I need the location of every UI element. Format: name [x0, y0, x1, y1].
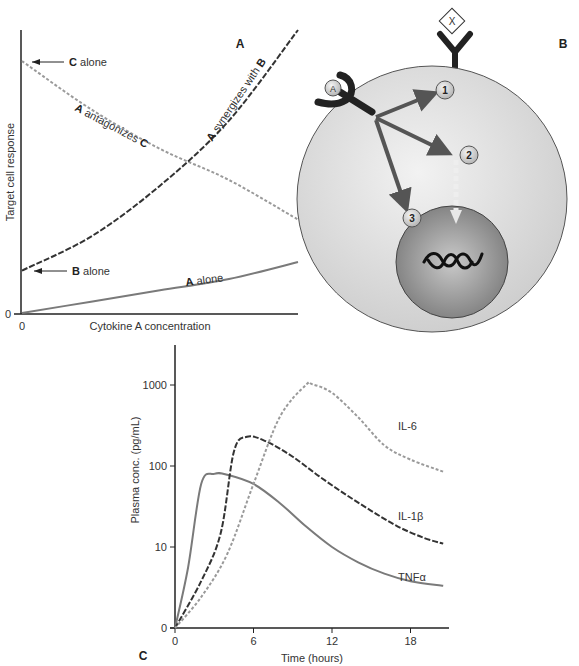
panel-c: 0101001000061218 Plasma conc. (pg/mL) Ti… [129, 345, 449, 664]
panel-a: 0 0 Cytokine A concentration Target cell… [4, 30, 298, 332]
y-tick-label: 10 [155, 541, 167, 553]
panel-c-x-label: Time (hours) [281, 652, 343, 664]
x-tick-label: 6 [250, 635, 256, 647]
ligand-a-label: A [330, 84, 336, 94]
antagonizes-label: A antagonizes C [73, 101, 150, 150]
panel-c-label: C [139, 649, 148, 663]
svg-text:3: 3 [409, 213, 415, 224]
panel-a-x-zero: 0 [19, 320, 25, 332]
x-tick-label: 0 [172, 635, 178, 647]
c-alone-label: C alone [69, 56, 107, 68]
series-line-a-antagonizes-c [22, 61, 298, 219]
synergizes-label: A synergizes with B [204, 56, 268, 143]
series-line-il-6 [175, 382, 443, 628]
panel-a-y-zero: 0 [5, 308, 11, 320]
c-alone-annotation: C alone [32, 56, 107, 68]
ligand-a-icon: A [325, 80, 341, 96]
step-badge-2: 2 [460, 146, 478, 164]
series-line-tnf [175, 473, 443, 628]
step-badge-1: 1 [436, 81, 454, 99]
panel-a-y-label: Target cell response [4, 123, 16, 221]
series-line-a-alone [22, 262, 298, 313]
y-tick-label: 0 [161, 622, 167, 634]
panel-c-plot [175, 382, 443, 628]
y-tick-label: 100 [149, 460, 167, 472]
ligand-x-label: X [449, 16, 456, 27]
b-alone-annotation: B alone [34, 265, 110, 277]
series-label-tnfa: TNFα [398, 571, 426, 583]
step-badge-3: 3 [403, 209, 421, 227]
a-alone-label: A alone [185, 271, 224, 288]
panel-c-y-label: Plasma conc. (pg/mL) [129, 417, 141, 524]
series-line-il-1 [175, 436, 443, 628]
ligand-x-icon: X [439, 8, 464, 33]
panel-b: B X A [297, 8, 568, 332]
panel-a-x-label: Cytokine A concentration [89, 320, 210, 332]
panel-a-label: A [236, 37, 245, 51]
x-tick-label: 12 [326, 635, 338, 647]
b-alone-label: B alone [72, 265, 110, 277]
panel-b-label: B [559, 37, 568, 51]
svg-text:1: 1 [442, 85, 448, 96]
series-label-il6: IL-6 [398, 420, 417, 432]
series-label-il1b: IL-1β [398, 510, 423, 522]
svg-text:2: 2 [466, 150, 472, 161]
y-tick-label: 1000 [143, 379, 167, 391]
figure-canvas: 0 0 Cytokine A concentration Target cell… [0, 0, 579, 666]
x-tick-label: 18 [404, 635, 416, 647]
